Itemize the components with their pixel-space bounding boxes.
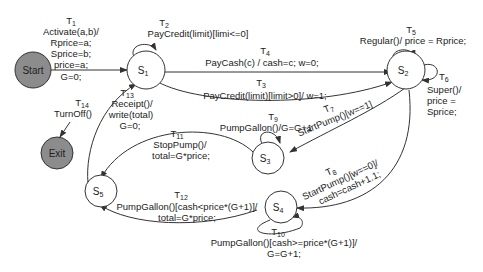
state-s5: S5 [85, 175, 117, 207]
svg-text:Sprice;: Sprice; [427, 106, 457, 117]
svg-text:PayCredit(limit)[limit>0]/ w=1: PayCredit(limit)[limit>0]/ w=1; [203, 90, 327, 101]
svg-text:Exit: Exit [49, 148, 66, 159]
svg-text:Receipt()/: Receipt()/ [111, 98, 153, 109]
label-t12: T12 PumpGallon()[cash<price*(G+1)]/ tota… [117, 189, 258, 223]
svg-text:T12: T12 [174, 189, 188, 201]
svg-text:total=G*price;: total=G*price; [152, 150, 210, 161]
svg-text:G=0;: G=0; [120, 120, 141, 131]
state-exit: Exit [41, 137, 73, 169]
svg-text:PayCash(c) / cash=c; w=0;: PayCash(c) / cash=c; w=0; [205, 57, 319, 68]
svg-text:T3: T3 [256, 77, 266, 89]
svg-text:TurnOff(): TurnOff() [54, 108, 92, 119]
state-diagram: Start S1 S2 S3 S4 S5 Exit T1 Activate(a,… [0, 0, 483, 272]
label-t6: T6 Super()/ price = Sprice; [427, 71, 462, 117]
svg-text:Regular()/ price = Rprice;: Regular()/ price = Rprice; [360, 35, 466, 46]
state-start: Start [15, 52, 51, 88]
svg-text:Activate(a,b)/: Activate(a,b)/ [43, 26, 99, 37]
svg-text:PumpGallon()[cash<price*(G+1)]: PumpGallon()[cash<price*(G+1)]/ [117, 201, 258, 212]
label-t1: T1 Activate(a,b)/ Rprice=a; Sprice=b; pr… [43, 15, 99, 82]
diagram-svg: Start S1 S2 S3 S4 S5 Exit T1 Activate(a,… [0, 0, 483, 272]
svg-text:PumpGallon()[cash>=price*(G+1): PumpGallon()[cash>=price*(G+1)]/ [211, 237, 358, 248]
state-s2: S2 [387, 51, 425, 89]
svg-text:price =: price = [427, 95, 456, 106]
label-t11: T11 StopPump()/ total=G*price; [152, 128, 210, 161]
state-s4: S4 [265, 191, 297, 223]
svg-text:G=0;: G=0; [61, 71, 82, 82]
svg-text:Super()/: Super()/ [427, 84, 462, 95]
state-s3: S3 [252, 142, 284, 174]
svg-text:total=G*price;: total=G*price; [158, 212, 216, 223]
svg-text:T6: T6 [439, 71, 449, 83]
svg-text:StopPump()/: StopPump()/ [153, 139, 207, 150]
svg-text:T4: T4 [260, 45, 270, 57]
svg-text:PumpGallon()/G=G+1: PumpGallon()/G=G+1 [220, 122, 312, 133]
label-t5: T5 Regular()/ price = Rprice; [360, 24, 466, 46]
state-s1: S1 [127, 51, 165, 89]
label-t13: T13 Receipt()/ write(total) G=0; [108, 87, 153, 131]
svg-text:Start: Start [22, 65, 43, 76]
svg-text:write(total): write(total) [108, 109, 153, 120]
label-t2: T2 PayCredit(limit)[limi<=0] [148, 17, 249, 39]
svg-text:Rprice=a;: Rprice=a; [51, 37, 92, 48]
label-t4: T4 PayCash(c) / cash=c; w=0; [205, 45, 319, 68]
label-t9: T9 PumpGallon()/G=G+1 [220, 111, 312, 133]
label-t14: T14 TurnOff() [54, 97, 92, 119]
label-t8: T8 StartPump()[w==0]/ cash=cash+1.1; [295, 146, 384, 212]
svg-text:price=a;: price=a; [54, 59, 88, 70]
svg-text:Sprice=b;: Sprice=b; [51, 48, 91, 59]
label-t10: T10 PumpGallon()[cash>=price*(G+1)]/ G=G… [211, 226, 358, 259]
svg-text:PayCredit(limit)[limi<=0]: PayCredit(limit)[limi<=0] [148, 28, 249, 39]
label-t3: T3 PayCredit(limit)[limit>0]/ w=1; [203, 77, 327, 101]
edge-t14 [60, 122, 70, 137]
svg-text:G=G+1;: G=G+1; [267, 248, 301, 259]
